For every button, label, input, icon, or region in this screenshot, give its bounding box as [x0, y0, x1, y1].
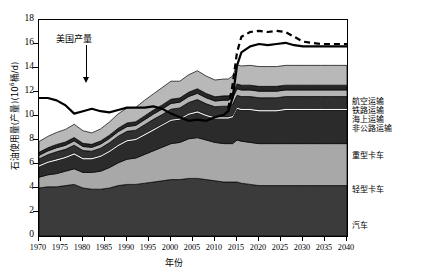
legend-item-0: 航空运输 [352, 98, 384, 106]
x-tick-label: 2005 [184, 244, 200, 252]
y-axis-title-main: 石油使用量(产量)(10 [10, 86, 20, 170]
y-axis-title-exponent: 6 [8, 82, 15, 86]
x-tick-label: 1980 [74, 244, 90, 252]
y-axis-title: 石油使用量(产量)(106桶/d) [8, 6, 20, 226]
x-tick-label: 2025 [272, 244, 288, 252]
x-tick-label: 2040 [338, 244, 354, 252]
y-axis-title-tail: 桶/d) [10, 62, 20, 83]
y-tick-label: 18 [25, 14, 35, 24]
x-tick-mark [302, 237, 303, 241]
legend-item-2: 海上运输 [352, 116, 384, 124]
x-tick-label: 1990 [118, 244, 134, 252]
x-tick-mark [346, 237, 347, 241]
x-axis: 年份 1970197519801985199019952000200520102… [0, 237, 422, 272]
plot-area [38, 19, 348, 237]
x-tick-mark [236, 237, 237, 241]
x-axis-title: 年份 [0, 256, 348, 269]
x-tick-mark [258, 237, 259, 241]
x-tick-label: 2000 [162, 244, 178, 252]
x-tick-mark [126, 237, 127, 241]
x-tick-label: 2015 [228, 244, 244, 252]
legend-item-1: 铁路运输 [352, 107, 384, 115]
x-tick-mark [192, 237, 193, 241]
x-tick-label: 2035 [316, 244, 332, 252]
x-tick-mark [82, 237, 83, 241]
x-tick-label: 1985 [96, 244, 112, 252]
x-tick-label: 1995 [140, 244, 156, 252]
legend-item-4: 重型卡车 [352, 152, 384, 160]
x-tick-mark [280, 237, 281, 241]
legend-item-6: 汽车 [352, 222, 368, 230]
x-tick-mark [60, 237, 61, 241]
x-tick-label: 2010 [206, 244, 222, 252]
x-tick-label: 1970 [30, 244, 46, 252]
legend-item-3: 非公路运输 [352, 125, 392, 133]
x-tick-mark [104, 237, 105, 241]
annotation-us-production-label: 美国产量 [56, 32, 92, 45]
x-tick-label: 1975 [52, 244, 68, 252]
x-tick-mark [170, 237, 171, 241]
x-tick-label: 2030 [294, 244, 310, 252]
x-tick-mark [148, 237, 149, 241]
annotation-arrow-icon [86, 45, 87, 78]
legend-item-5: 轻型卡车 [352, 186, 384, 194]
x-tick-mark [324, 237, 325, 241]
x-tick-mark [214, 237, 215, 241]
x-tick-label: 2020 [250, 244, 266, 252]
x-tick-mark [38, 237, 39, 241]
oil-use-stacked-area-chart: 024681012141618 石油使用量(产量)(106桶/d) 美国产量 年… [0, 0, 422, 272]
